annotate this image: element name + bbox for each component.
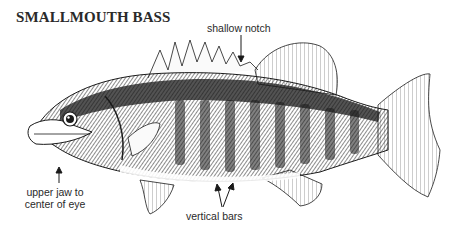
annotation-upper-jaw-line2: center of eye	[17, 198, 93, 210]
annotation-upper-jaw: upper jaw to center of eye	[17, 186, 93, 210]
annotation-upper-jaw-line1: upper jaw to	[17, 186, 93, 198]
pelvic-fin	[140, 180, 174, 214]
annotation-vertical-bars: vertical bars	[186, 210, 243, 222]
annotation-shallow-notch: shallow notch	[207, 22, 271, 34]
eye-icon	[63, 112, 77, 126]
